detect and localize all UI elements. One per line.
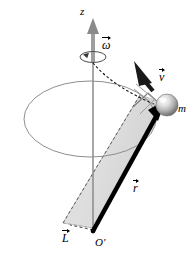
particle-group <box>156 94 178 116</box>
z-axis-arrow-body <box>91 30 95 62</box>
L-vector-arrowbar <box>62 230 69 231</box>
z-axis-arrowhead <box>87 18 99 34</box>
r-vector-arrowbar <box>133 180 138 181</box>
particle-sphere <box>156 94 178 116</box>
omega-vector-arrowbar <box>102 37 110 38</box>
particle-specular-highlight <box>160 97 167 102</box>
v-vector-arrowhead <box>134 61 152 86</box>
mass-label: m <box>178 103 186 114</box>
origin-marker-dot <box>91 229 96 234</box>
physics-figure: z ω v m r L O′ <box>0 0 195 259</box>
velocity-label: v <box>159 69 164 83</box>
position-vector-label: r <box>133 180 138 194</box>
figure-canvas <box>0 0 195 259</box>
origin-label: O′ <box>95 237 105 248</box>
swept-plane <box>63 95 167 228</box>
swept-plane-group <box>63 95 167 228</box>
v-vector-arrowbar <box>159 69 164 70</box>
angular-velocity-label: ω <box>102 37 110 51</box>
axis-z-label: z <box>80 6 84 17</box>
angular-momentum-label: L <box>62 230 69 244</box>
